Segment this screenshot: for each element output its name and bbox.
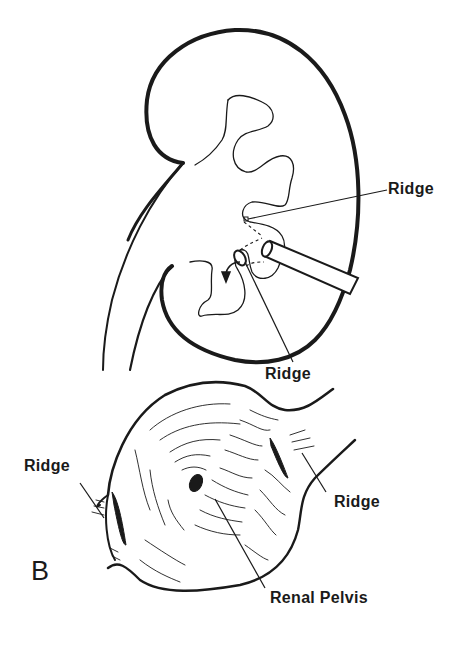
label-ridge-lower: Ridge [265, 365, 311, 383]
rotation-arrow [222, 262, 240, 282]
label-ridge-left: Ridge [24, 457, 70, 475]
panel-letter: B [31, 556, 49, 587]
label-ridge-right: Ridge [334, 493, 380, 511]
kidney-outline [103, 30, 358, 370]
label-renal-pelvis: Renal Pelvis [270, 589, 368, 607]
kidney-diagram [0, 0, 475, 649]
label-ridge-upper: Ridge [388, 180, 434, 198]
renal-pelvis-outline [97, 382, 355, 591]
contour-hatching [92, 404, 314, 582]
